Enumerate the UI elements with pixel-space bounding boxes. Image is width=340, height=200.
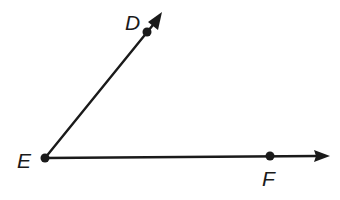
- point-e-label: E: [17, 149, 32, 172]
- point-e-dot: [41, 154, 50, 163]
- point-f-label: F: [262, 167, 276, 190]
- point-f-dot: [266, 152, 275, 161]
- angle-diagram: D E F: [0, 0, 340, 200]
- point-d-label: D: [125, 11, 140, 34]
- ray-ed-line: [45, 20, 157, 158]
- ray-ef-line: [45, 156, 318, 158]
- ray-ef-arrowhead-icon: [314, 150, 330, 162]
- point-d-dot: [143, 28, 152, 37]
- ray-ef: [45, 150, 330, 162]
